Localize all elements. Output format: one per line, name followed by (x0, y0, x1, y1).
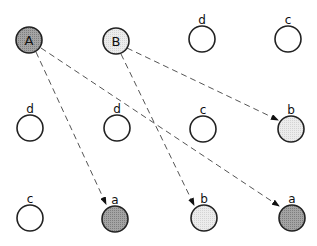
node-A: A (16, 27, 42, 53)
node-r2c3: a (279, 192, 305, 231)
node-B: B (103, 28, 129, 54)
node-inner-label: B (112, 34, 121, 49)
node-top-label: d (198, 13, 206, 27)
node-r0c3: c (275, 13, 301, 52)
node-r1c2: c (190, 103, 216, 142)
node-circle (191, 205, 217, 231)
edge-layer (36, 48, 279, 206)
node-inner-label: A (25, 33, 34, 48)
dashed-arrow-a-to-r2c3 (41, 48, 279, 206)
node-circle (189, 26, 215, 52)
node-top-label: d (26, 102, 34, 116)
dashed-arrow-b-to-r2c2 (121, 54, 194, 205)
node-r0c2: d (189, 13, 215, 52)
matching-diagram: ABdcddcbcaba (0, 0, 317, 246)
node-top-label: c (27, 192, 34, 206)
node-r1c0: d (17, 102, 43, 141)
node-layer: ABdcddcbcaba (16, 13, 305, 232)
node-circle (278, 116, 304, 142)
node-top-label: b (287, 103, 295, 117)
node-top-label: c (200, 103, 207, 117)
dashed-arrow-a-to-r2c1 (36, 52, 106, 204)
node-r2c1: a (102, 193, 128, 232)
node-circle (17, 205, 43, 231)
node-circle (17, 115, 43, 141)
node-r1c3: b (278, 103, 304, 142)
node-top-label: d (113, 102, 121, 116)
node-top-label: a (288, 192, 295, 206)
node-circle (102, 206, 128, 232)
node-circle (104, 115, 130, 141)
node-circle (275, 26, 301, 52)
node-top-label: c (285, 13, 292, 27)
node-top-label: a (111, 193, 118, 207)
node-r2c0: c (17, 192, 43, 231)
node-r2c2: b (191, 192, 217, 231)
node-circle (190, 116, 216, 142)
node-top-label: b (200, 192, 208, 206)
node-r1c1: d (104, 102, 130, 141)
node-circle (279, 205, 305, 231)
